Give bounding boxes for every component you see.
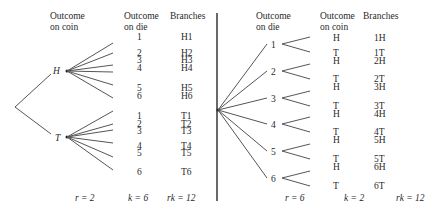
left-H-die-4: 4 bbox=[137, 63, 142, 73]
right-footer-rk: rk = 12 bbox=[396, 193, 425, 203]
right-footer-r: r = 6 bbox=[285, 193, 305, 203]
left-T-die-5: 5 bbox=[137, 148, 142, 158]
left-header-coin-line1: Outcome bbox=[50, 11, 85, 21]
right-header-die-line2: on die bbox=[256, 22, 279, 32]
right-die-1: 1 bbox=[271, 40, 276, 50]
fan-H bbox=[67, 43, 113, 98]
right-die-2: 2 bbox=[271, 67, 276, 77]
left-T-die-3: 3 bbox=[137, 126, 142, 136]
right-header-coin-line1: Outcome bbox=[320, 11, 355, 21]
left-T-die-6: 6 bbox=[137, 167, 142, 177]
left-footer-k: k = 6 bbox=[128, 193, 148, 203]
left-branch-T6: T6 bbox=[181, 167, 192, 177]
left-header-branches: Branches bbox=[170, 11, 206, 21]
left-tree: Outcome on coin Outcome on die Branches … bbox=[15, 11, 206, 203]
right-6-coin-H: H bbox=[333, 162, 340, 172]
left-branch-T5: T5 bbox=[181, 148, 192, 158]
branch-root-T bbox=[15, 107, 51, 134]
right-branch-2H: 2H bbox=[374, 56, 386, 66]
tree-diagrams: Outcome on coin Outcome on die Branches … bbox=[0, 0, 437, 211]
right-die-4: 4 bbox=[271, 120, 276, 130]
fan-T bbox=[67, 111, 113, 170]
left-H-die-6: 6 bbox=[137, 91, 142, 101]
left-branch-H1: H1 bbox=[181, 32, 193, 42]
right-2-coin-H: H bbox=[333, 56, 340, 66]
right-1-coin-H: H bbox=[333, 33, 340, 43]
left-header-die-line1: Outcome bbox=[124, 11, 159, 21]
left-header-coin-line2: on coin bbox=[50, 22, 78, 32]
left-H-die-1: 1 bbox=[137, 32, 142, 42]
right-branch-6H: 6H bbox=[374, 162, 386, 172]
right-footer-k: k = 2 bbox=[344, 193, 364, 203]
right-branch-5H: 5H bbox=[374, 135, 386, 145]
left-branch-H6: H6 bbox=[181, 91, 193, 101]
right-branch-1H: 1H bbox=[374, 33, 386, 43]
right-die-5: 5 bbox=[271, 147, 276, 157]
right-die-6: 6 bbox=[271, 174, 276, 184]
right-header-branches: Branches bbox=[363, 11, 399, 21]
right-branch-6T: 6T bbox=[374, 181, 385, 191]
right-4-coin-H: H bbox=[333, 109, 340, 119]
left-branch-T3: T3 bbox=[181, 126, 192, 136]
right-root-fan bbox=[218, 44, 267, 178]
left-footer-rk: rk = 12 bbox=[167, 193, 196, 203]
right-die-3: 3 bbox=[271, 94, 276, 104]
right-branch-4H: 4H bbox=[374, 109, 386, 119]
left-footer-r: r = 2 bbox=[75, 193, 95, 203]
right-tree: Outcome on die Outcome on coin Branches … bbox=[216, 11, 424, 203]
right-3-coin-H: H bbox=[333, 82, 340, 92]
branch-root-H bbox=[15, 74, 51, 107]
right-header-coin-line2: on coin bbox=[320, 22, 348, 32]
right-branch-3H: 3H bbox=[374, 82, 386, 92]
right-coin-forks bbox=[282, 37, 310, 186]
node-H-label: H bbox=[52, 66, 61, 76]
right-header-die-line1: Outcome bbox=[256, 11, 291, 21]
right-5-coin-H: H bbox=[333, 135, 340, 145]
node-T-label: T bbox=[55, 133, 61, 143]
right-6-coin-T: T bbox=[333, 181, 339, 191]
left-header-die-line2: on die bbox=[124, 22, 147, 32]
left-branch-H4: H4 bbox=[181, 63, 193, 73]
